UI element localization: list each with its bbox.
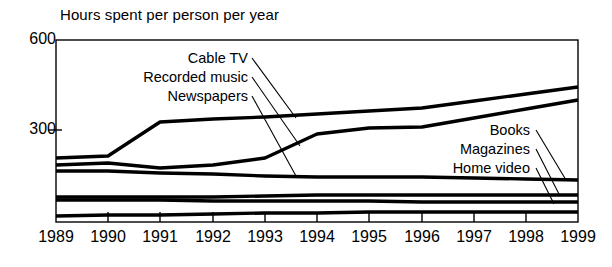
series-line-newspapers — [56, 171, 578, 180]
leader-lines-right — [536, 130, 566, 204]
series-line-recorded-music — [56, 100, 578, 168]
series-line-books — [56, 195, 578, 197]
chart-container: Hours spent per person per year 600 300 … — [0, 0, 612, 267]
series-line-cable-tv — [56, 87, 578, 158]
series-lines — [56, 87, 578, 216]
series-line-magazines — [56, 200, 578, 202]
plot-area — [0, 0, 612, 267]
